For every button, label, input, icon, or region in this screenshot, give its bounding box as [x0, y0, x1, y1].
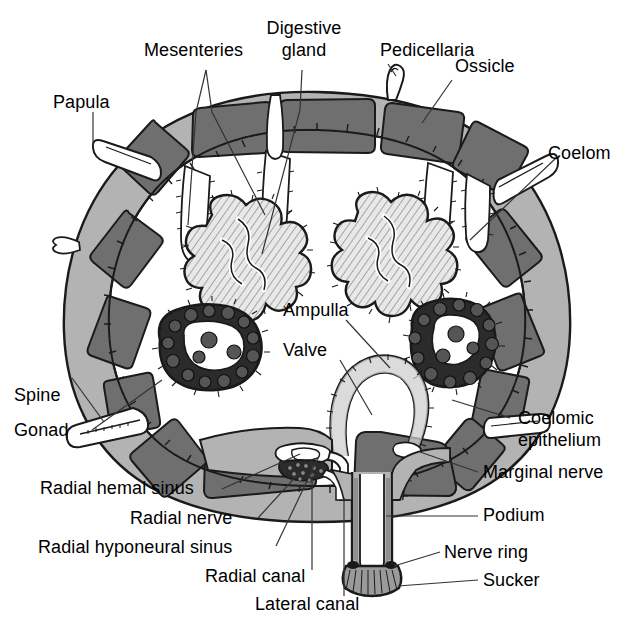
label-mesenteries: Mesenteries — [144, 40, 243, 61]
label-sucker: Sucker — [483, 570, 540, 591]
label-digestive-gland-line2: gland — [256, 40, 352, 61]
label-lateral-canal: Lateral canal — [255, 594, 359, 615]
label-gonad: Gonad — [14, 420, 69, 441]
ossicle — [381, 103, 464, 163]
label-radial-hyponeural-sinus: Radial hyponeural sinus — [38, 537, 232, 558]
mesentery — [465, 174, 490, 252]
podium-lumen — [360, 474, 384, 571]
label-spine: Spine — [14, 385, 61, 406]
label-digestive-gland-line1: Digestive — [256, 18, 352, 39]
label-coelomic-epithelium-line1: Coelomic — [518, 408, 594, 429]
label-coelomic-epithelium-line2: epithelium — [518, 430, 601, 451]
label-coelom: Coelom — [548, 143, 611, 164]
label-radial-nerve: Radial nerve — [130, 508, 232, 529]
anatomical-figure: Mesenteries Digestive gland Pedicellaria… — [0, 0, 634, 622]
mesentery — [267, 95, 283, 159]
label-papula: Papula — [53, 92, 110, 113]
ossicle — [192, 102, 272, 157]
label-radial-canal: Radial canal — [205, 566, 305, 587]
label-valve: Valve — [283, 340, 327, 361]
radial-hemal-sinus — [292, 448, 320, 461]
label-ossicle: Ossicle — [455, 56, 515, 77]
label-radial-hemal-sinus: Radial hemal sinus — [40, 478, 194, 499]
label-podium: Podium — [483, 505, 545, 526]
label-ampulla: Ampulla — [283, 300, 349, 321]
label-marginal-nerve: Marginal nerve — [483, 462, 603, 483]
label-nerve-ring: Nerve ring — [444, 542, 528, 563]
